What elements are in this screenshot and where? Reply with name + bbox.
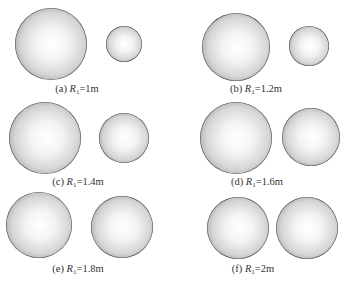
large-sphere — [9, 102, 81, 174]
panel-caption: (e) R1=1.8m — [52, 263, 103, 278]
small-sphere — [106, 26, 142, 62]
panel-caption: (d) R1=1.6m — [231, 176, 283, 191]
large-sphere — [200, 102, 272, 174]
panel-caption: (f) R1=2m — [232, 263, 274, 278]
panel-caption: (b) R1=1.2m — [230, 83, 282, 98]
small-sphere — [289, 26, 329, 66]
sphere-comparison-figure: (a) R1=1m (b) R1=1.2m (c) R1=1.4m (d) R1… — [0, 0, 349, 281]
large-sphere — [15, 8, 87, 80]
panel-caption: (a) R1=1m — [55, 83, 99, 98]
right-sphere — [276, 197, 338, 259]
small-sphere — [91, 196, 153, 258]
left-sphere — [207, 197, 269, 259]
panel-caption: (c) R1=1.4m — [52, 176, 103, 191]
large-sphere — [6, 192, 72, 258]
large-sphere — [202, 13, 270, 81]
small-sphere — [99, 113, 149, 163]
small-sphere — [282, 108, 340, 166]
